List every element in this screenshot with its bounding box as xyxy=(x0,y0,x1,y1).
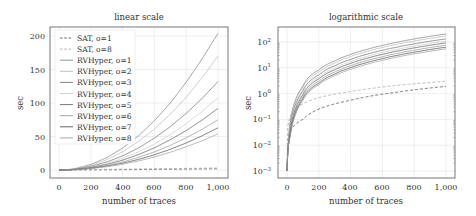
y-tick: 50 xyxy=(35,133,45,142)
series-line xyxy=(287,86,446,171)
x-tick: 800 xyxy=(406,183,421,192)
data-lines xyxy=(287,34,446,171)
legend-label: RVHyper, o=5 xyxy=(77,101,132,110)
legend-label: SAT, o=8 xyxy=(77,45,112,54)
y-tick-labels: 10−310−210−1100101102 xyxy=(253,37,272,177)
x-tick: 800 xyxy=(178,183,193,192)
logarithmic-scale-plot: logarithmic scale 0 200 400 600 800 1,00… xyxy=(243,12,457,206)
legend-label: RVHyper, o=7 xyxy=(77,123,132,132)
y-tick: 0 xyxy=(40,166,45,175)
legend-label: RVHyper, o=4 xyxy=(77,90,132,99)
y-tick: 100 xyxy=(30,99,45,108)
legend-label: RVHyper, o=8 xyxy=(77,134,132,143)
series-line xyxy=(287,49,446,171)
x-tick-labels: 0 200 400 600 800 1,000 xyxy=(56,183,229,192)
y-tick-labels: 0 50 100 150 200 xyxy=(30,32,45,175)
series-line xyxy=(287,43,446,171)
series-line xyxy=(287,47,446,171)
x-tick: 200 xyxy=(311,183,326,192)
series-line xyxy=(287,81,446,171)
plot-title: logarithmic scale xyxy=(329,12,403,22)
x-tick: 1,000 xyxy=(207,183,230,192)
x-tick: 0 xyxy=(56,183,61,192)
x-tick: 600 xyxy=(146,183,161,192)
legend-label: SAT, o=1 xyxy=(77,34,112,43)
plot-title: linear scale xyxy=(114,12,164,22)
linear-scale-plot: linear scale 0 200 400 600 800 1,000 0 5… xyxy=(15,12,229,206)
y-tick: 102 xyxy=(257,37,271,48)
x-tick: 600 xyxy=(374,183,389,192)
x-axis-label: number of traces xyxy=(102,196,176,206)
y-tick: 101 xyxy=(257,62,271,73)
y-tick: 10−3 xyxy=(253,166,272,177)
x-tick: 400 xyxy=(342,183,357,192)
y-tick: 200 xyxy=(30,32,45,41)
x-tick-labels: 0 200 400 600 800 1,000 xyxy=(284,183,457,192)
x-axis-label: number of traces xyxy=(329,196,403,206)
figure: linear scale 0 200 400 600 800 1,000 0 5… xyxy=(0,0,476,216)
y-axis-label: sec xyxy=(15,96,25,110)
y-tick: 150 xyxy=(30,66,45,75)
legend-label: RVHyper, o=2 xyxy=(77,67,132,76)
y-tick: 10−1 xyxy=(253,114,271,125)
legend-label: RVHyper, o=3 xyxy=(77,78,132,87)
x-tick: 200 xyxy=(83,183,98,192)
y-axis-label: sec xyxy=(243,96,253,110)
x-tick: 0 xyxy=(284,183,289,192)
legend-label: RVHyper, o=6 xyxy=(77,112,132,121)
legend-label: RVHyper, o=1 xyxy=(77,56,132,65)
y-tick: 10−2 xyxy=(253,140,271,151)
x-tick: 1,000 xyxy=(435,183,458,192)
x-tick: 400 xyxy=(115,183,130,192)
legend: SAT, o=1SAT, o=8RVHyper, o=1RVHyper, o=2… xyxy=(55,30,135,144)
y-tick: 100 xyxy=(257,88,271,99)
